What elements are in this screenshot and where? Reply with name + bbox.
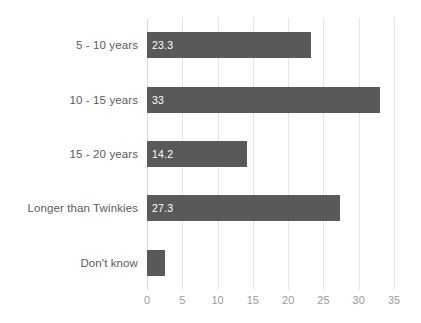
chart-title (0, 0, 421, 5)
x-tick-label: 30 (353, 294, 365, 306)
category-label: 15 - 20 years (70, 148, 138, 160)
bar (147, 250, 165, 276)
bar-value-label: 23.3 (152, 39, 173, 51)
x-tick-label: 20 (282, 294, 294, 306)
gridline-35 (394, 18, 395, 290)
x-tick-label: 0 (144, 294, 150, 306)
bar-row: 10 - 15 years33 (147, 72, 394, 126)
category-label: 10 - 15 years (70, 94, 138, 106)
category-label: 5 - 10 years (76, 39, 138, 51)
bar-row: Longer than Twinkies27.3 (147, 181, 394, 235)
bar: 23.3 (147, 32, 311, 58)
bar-value-label: 33 (152, 94, 164, 106)
category-label: Longer than Twinkies (28, 202, 138, 214)
plot-area: 5 - 10 years23.310 - 15 years3315 - 20 y… (147, 18, 394, 290)
x-tick-label: 5 (179, 294, 185, 306)
bar-value-label: 14.2 (152, 148, 173, 160)
category-label: Don't know (80, 257, 138, 269)
x-tick-label: 35 (388, 294, 400, 306)
x-tick-label: 10 (211, 294, 223, 306)
bar: 14.2 (147, 141, 247, 167)
bar-row: Don't know (147, 236, 394, 290)
bar: 33 (147, 87, 380, 113)
x-tick-label: 25 (317, 294, 329, 306)
x-tick-label: 15 (247, 294, 259, 306)
bar-row: 15 - 20 years14.2 (147, 127, 394, 181)
bar: 27.3 (147, 195, 340, 221)
bar-row: 5 - 10 years23.3 (147, 18, 394, 72)
x-axis: 05101520253035 (147, 292, 394, 312)
bar-value-label: 27.3 (152, 202, 173, 214)
bar-chart: 5 - 10 years23.310 - 15 years3315 - 20 y… (0, 0, 421, 323)
bar-rows: 5 - 10 years23.310 - 15 years3315 - 20 y… (147, 18, 394, 290)
